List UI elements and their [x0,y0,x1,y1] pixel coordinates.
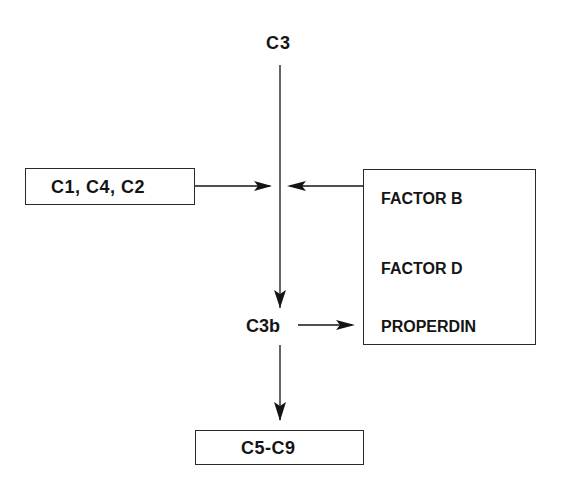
alternative-pathway-box: FACTOR B FACTOR D PROPERDIN [363,169,536,345]
classical-arrow [194,181,272,191]
alternative-arrow [287,181,364,191]
factor-d-label: FACTOR D [381,261,462,277]
classical-pathway-label: C1, C4, C2 [51,178,145,196]
terminal-pathway-label: C5-C9 [241,439,296,457]
c3-to-c3b-arrow [274,65,286,308]
factor-b-label: FACTOR B [381,191,462,207]
c3b-to-terminal-arrow [274,345,286,421]
complement-pathway-diagram: C3 C1, C4, C2 FACTOR B FACTOR D PROPERDI… [0,0,562,491]
terminal-pathway-box: C5-C9 [195,430,364,465]
c3-label: C3 [266,34,291,52]
properdin-label: PROPERDIN [381,319,476,335]
c3b-feedback-arrow [298,320,355,330]
c3b-label: C3b [246,317,280,335]
classical-pathway-box: C1, C4, C2 [25,168,195,205]
